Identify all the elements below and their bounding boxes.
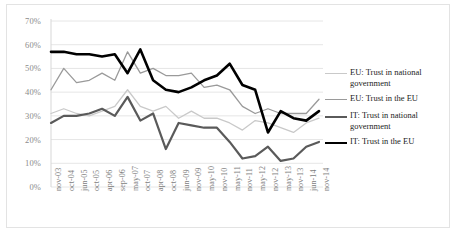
x-tick-label: may-13 [284, 166, 293, 191]
y-tick-label: 70% [15, 16, 41, 26]
x-tick-label: apr-08 [156, 170, 165, 191]
series-line-it_eu [51, 49, 319, 132]
legend-label: IT: Trust in the EU [350, 136, 414, 147]
legend-label: EU: Trust in the EU [350, 93, 418, 104]
x-tick-label: sep-06 [118, 169, 127, 191]
legend-label: EU: Trust in national government [350, 67, 446, 88]
x-tick-label: jun-05 [80, 170, 89, 192]
x-tick-label: jun-14 [309, 170, 318, 192]
legend-line-swatch [325, 136, 347, 148]
x-tick-label: oct-05 [92, 170, 101, 191]
x-tick-label: may-07 [131, 166, 140, 191]
y-tick-label: 20% [15, 135, 41, 145]
y-tick-label: 50% [15, 63, 41, 73]
x-tick-label: nov-13 [296, 168, 305, 191]
legend-item-eu_national[interactable]: EU: Trust in national government [325, 67, 449, 88]
chart-figure: 0%10%20%30%40%50%60%70% nov-03oct-04jun-… [6, 4, 450, 228]
y-tick-label: 40% [15, 87, 41, 97]
x-tick-label: nov-14 [322, 168, 331, 191]
legend-item-it_national[interactable]: IT: Trust in national government [325, 110, 449, 131]
chart-legend: EU: Trust in national governmentEU: Trus… [325, 67, 449, 153]
y-tick-label: 0% [15, 182, 41, 192]
legend-item-it_eu[interactable]: IT: Trust in the EU [325, 136, 449, 148]
x-tick-label: nov-09 [194, 168, 203, 191]
x-tick-label: apr-06 [105, 170, 114, 191]
x-tick-label: nov-11 [245, 168, 254, 191]
x-tick-label: may-12 [258, 166, 267, 191]
x-tick-label: oct-04 [67, 170, 76, 191]
series-line-it_national [51, 97, 319, 161]
x-tick-label: oct-07 [143, 170, 152, 191]
x-tick-label: nov-03 [54, 168, 63, 191]
x-tick-label: oct-08 [169, 170, 178, 191]
x-tick-label: nov-10 [220, 168, 229, 191]
series-line-eu_eu [51, 52, 319, 114]
legend-item-eu_eu[interactable]: EU: Trust in the EU [325, 93, 449, 105]
y-tick-label: 30% [15, 111, 41, 121]
x-tick-label: may-11 [233, 166, 242, 191]
legend-line-swatch [325, 67, 347, 79]
x-tick-label: nov-12 [271, 168, 280, 191]
x-tick-label: may-10 [207, 166, 216, 191]
y-tick-label: 10% [15, 158, 41, 168]
x-tick-label: jun-09 [182, 170, 191, 192]
legend-line-swatch [325, 110, 347, 122]
legend-label: IT: Trust in national government [350, 110, 446, 131]
y-tick-label: 60% [15, 40, 41, 50]
series-line-eu_national [51, 90, 319, 133]
legend-line-swatch [325, 93, 347, 105]
